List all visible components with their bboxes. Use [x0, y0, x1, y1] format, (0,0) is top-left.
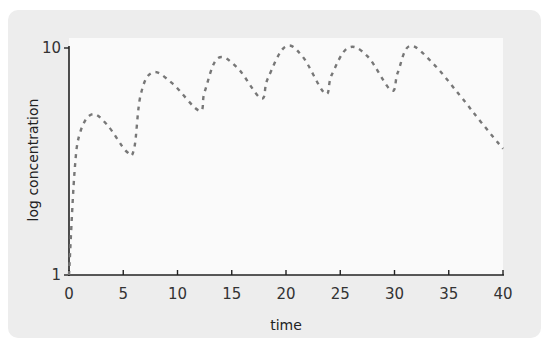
y-axis-label: log concentration	[25, 99, 41, 222]
y-ticks: 110	[42, 39, 69, 284]
x-tick-label: 25	[331, 285, 350, 303]
x-tick-label: 20	[276, 285, 295, 303]
x-tick-label: 0	[64, 285, 74, 303]
x-axis-label: time	[270, 317, 302, 333]
concentration-line	[69, 46, 503, 275]
y-tick-label: 1	[51, 266, 61, 284]
x-tick-label: 40	[493, 285, 512, 303]
x-tick-label: 35	[439, 285, 458, 303]
x-tick-label: 15	[222, 285, 241, 303]
y-tick-label: 10	[42, 39, 61, 57]
axes	[68, 46, 504, 276]
x-tick-label: 5	[118, 285, 128, 303]
x-tick-label: 30	[385, 285, 404, 303]
chart-svg: 0510152025303540 110 time log concentrat…	[0, 0, 549, 350]
x-tick-label: 10	[168, 285, 187, 303]
